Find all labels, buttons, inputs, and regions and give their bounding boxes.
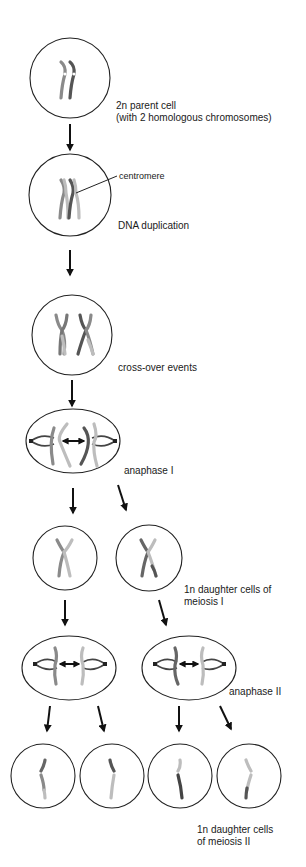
diagonal-arrow xyxy=(220,706,231,729)
homologous-chromosome-pair xyxy=(61,62,76,98)
duplicated-chromosomes xyxy=(60,180,79,218)
diagonal-arrow xyxy=(47,706,50,731)
stage-sublabel-parent: (with 2 homologous chromosomes) xyxy=(116,112,272,124)
daughter-cell-meiosis-2-2 xyxy=(80,744,144,808)
anaphase-1-cell xyxy=(26,409,120,473)
stage-label-crossover: cross-over events xyxy=(118,362,197,374)
stage-sublabel-daughters-2: of meiosis II xyxy=(197,836,250,848)
stage-label-anaphase-1: anaphase I xyxy=(124,465,174,477)
stage-label-duplication: DNA duplication xyxy=(118,220,189,232)
parent-cell xyxy=(30,38,110,118)
stage-label-anaphase-2: anaphase II xyxy=(229,686,281,698)
crossover-cell xyxy=(32,295,112,375)
crossover-chromosomes-right xyxy=(78,315,93,354)
meiosis-diagram xyxy=(0,0,306,867)
daughter-cell-meiosis-2-4 xyxy=(217,744,281,808)
daughter-cell-meiosis-2-3 xyxy=(148,744,212,808)
stage-sublabel-daughters-1: meiosis I xyxy=(184,596,223,608)
stage-label-parent: 2n parent cell xyxy=(116,100,176,112)
anaphase-2-cell-left xyxy=(22,636,116,700)
crossover-chromosomes-left xyxy=(56,315,67,354)
stage-label-daughters-1: 1n daughter cells of xyxy=(184,584,271,596)
daughter-cell-meiosis-1-left xyxy=(33,526,97,590)
stage-label-daughters-2: 1n daughter cells xyxy=(197,824,273,836)
duplication-cell xyxy=(29,154,117,236)
diagonal-arrow xyxy=(118,485,126,510)
diagonal-arrow xyxy=(98,706,104,731)
diagonal-arrow xyxy=(159,600,166,625)
anaphase-2-cell-right xyxy=(142,636,236,700)
annotation-centromere: centromere xyxy=(119,170,165,182)
daughter-cell-meiosis-1-right xyxy=(116,525,182,591)
daughter-cell-meiosis-2-1 xyxy=(11,744,75,808)
